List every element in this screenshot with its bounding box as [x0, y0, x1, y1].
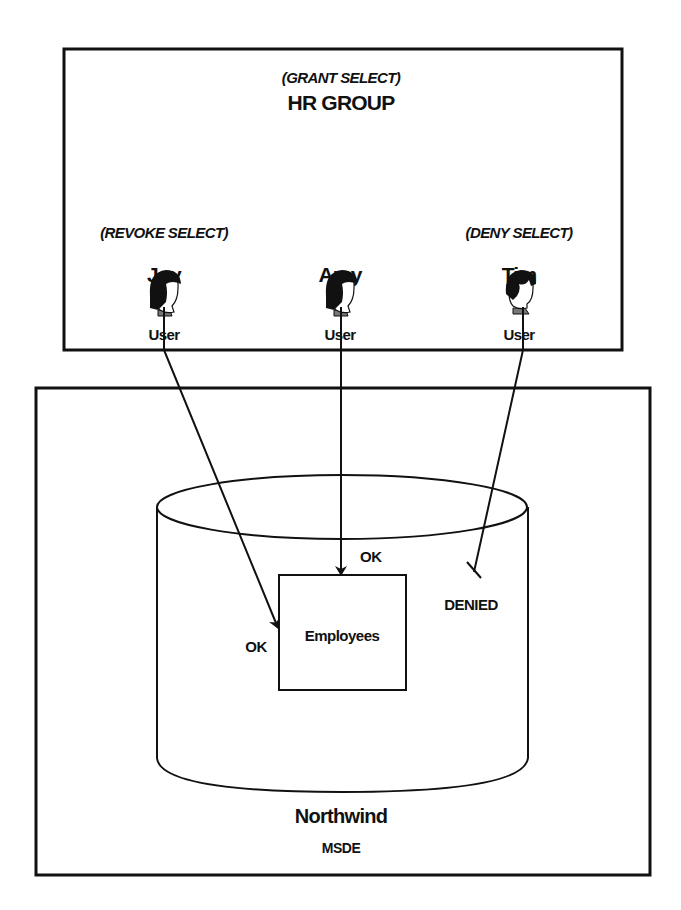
- tim-role-label: User: [504, 326, 536, 343]
- employees-table-label: Employees: [305, 627, 380, 644]
- joy-access-arrow: [164, 307, 278, 628]
- database-name-label: Northwind: [295, 805, 388, 827]
- tim-permission-label: (DENY SELECT): [466, 224, 574, 241]
- user-male-icon: [506, 270, 536, 314]
- amy-result-label: OK: [360, 548, 382, 565]
- tim-access-arrow: [474, 307, 523, 572]
- joy-result-label: OK: [245, 638, 267, 655]
- database-engine-label: MSDE: [322, 840, 361, 856]
- tim-result-label: DENIED: [444, 596, 498, 613]
- denied-x-icon: [467, 562, 481, 578]
- group-name-label: HR GROUP: [288, 91, 396, 114]
- user-female-icon: [150, 270, 181, 316]
- joy-permission-label: (REVOKE SELECT): [100, 224, 228, 241]
- group-permission-label: (GRANT SELECT): [282, 69, 401, 86]
- permissions-diagram: (GRANT SELECT) HR GROUP (REVOKE SELECT) …: [0, 0, 681, 910]
